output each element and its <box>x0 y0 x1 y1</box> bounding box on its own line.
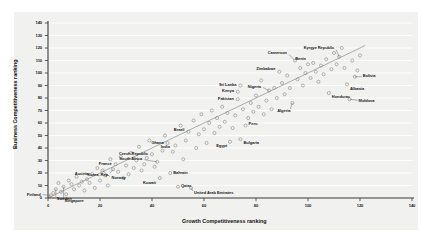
data-point <box>330 68 333 71</box>
x-tick-label: 120 <box>350 203 370 208</box>
y-tick-label: 70 <box>20 108 42 113</box>
y-tick-label: 40 <box>20 145 42 150</box>
data-point <box>184 139 187 142</box>
data-point <box>234 114 237 117</box>
data-point <box>140 169 143 172</box>
point-label: Bulgaria <box>243 140 259 145</box>
y-tick-label: 120 <box>20 45 42 50</box>
point-label: Norway <box>112 175 126 180</box>
data-point <box>132 166 135 169</box>
data-point <box>343 66 346 69</box>
data-point-labeled <box>171 150 174 153</box>
point-label: Honduras <box>332 94 350 99</box>
y-tick-label: 100 <box>20 70 42 75</box>
data-point <box>249 101 252 104</box>
y-axis-title: Business Competitiveness ranking <box>12 59 18 149</box>
point-label: Albania <box>350 86 364 91</box>
x-tick-label: 20 <box>90 203 110 208</box>
data-point <box>88 181 91 184</box>
y-tick-label: 90 <box>20 83 42 88</box>
data-point-labeled <box>236 90 239 93</box>
data-point <box>358 54 361 57</box>
data-point <box>288 86 291 89</box>
data-point <box>283 93 286 96</box>
data-point <box>98 179 101 182</box>
data-point-labeled <box>306 63 309 66</box>
data-point <box>257 105 260 108</box>
data-point <box>286 74 289 77</box>
data-point <box>280 81 283 84</box>
point-label: Sweden <box>57 196 72 201</box>
data-point <box>93 186 96 189</box>
data-point <box>205 141 208 144</box>
point-label: Austria <box>75 171 88 176</box>
data-point-labeled <box>291 101 294 104</box>
point-label: South Africa <box>119 156 142 161</box>
data-point <box>72 188 75 191</box>
y-tick-label: 10 <box>20 183 42 188</box>
x-axis-title: Growth Competitiveness ranking <box>182 218 266 224</box>
y-tick-label: 140 <box>20 20 42 25</box>
data-point <box>96 166 99 169</box>
point-label: Kyrgyz Republic <box>304 45 335 50</box>
data-point-labeled <box>244 124 247 127</box>
y-tick-label: 80 <box>20 95 42 100</box>
data-point-labeled <box>327 91 330 94</box>
y-tick-label: 130 <box>20 33 42 38</box>
data-point <box>218 125 221 128</box>
data-point <box>356 69 359 72</box>
point-label: Benin <box>295 56 306 61</box>
point-label: Finland <box>27 192 41 197</box>
x-tick-label: 100 <box>298 203 318 208</box>
point-label: Peru <box>249 121 258 126</box>
x-tick-label: 80 <box>246 203 266 208</box>
point-label: Brazil <box>174 127 185 132</box>
chart-figure: 0102030405060708090100110120130140020406… <box>0 0 430 244</box>
point-label: Kuwait <box>143 180 156 185</box>
data-point <box>335 63 338 66</box>
data-point <box>153 165 156 168</box>
data-point <box>57 181 60 184</box>
point-label: Bahrain <box>173 170 188 175</box>
point-label: India <box>161 144 170 149</box>
data-point <box>200 113 203 116</box>
data-point <box>312 61 315 64</box>
data-point-labeled <box>158 176 161 179</box>
point-label: Czech Republic <box>119 151 148 156</box>
y-tick-label: 30 <box>20 158 42 163</box>
point-label: Zimbabwe <box>256 66 275 71</box>
data-point <box>52 191 55 194</box>
point-label: Ghana <box>151 140 163 145</box>
point-label: Algeria <box>277 108 290 113</box>
x-tick-label: 140 <box>402 203 422 208</box>
data-point <box>231 126 234 129</box>
data-point <box>67 179 70 182</box>
x-tick-label: 0 <box>38 203 58 208</box>
data-point <box>202 128 205 131</box>
data-point <box>124 164 127 167</box>
point-label: United Arab Emirates <box>194 190 233 195</box>
data-point <box>83 189 86 192</box>
data-point <box>247 116 250 119</box>
point-label: Egypt <box>216 143 227 148</box>
data-point <box>174 144 177 147</box>
point-label: Qatar <box>181 183 191 188</box>
point-label: Sri Lanka <box>219 82 237 87</box>
data-point <box>254 94 257 97</box>
data-point <box>317 80 320 83</box>
point-label: France <box>99 161 112 166</box>
data-point <box>309 76 312 79</box>
data-point <box>221 105 224 108</box>
x-tick-label: 40 <box>142 203 162 208</box>
data-point <box>262 113 265 116</box>
point-label: Kenya <box>222 88 234 93</box>
data-point <box>265 99 268 102</box>
data-point <box>332 51 335 54</box>
y-tick-label: 110 <box>20 58 42 63</box>
data-point-labeled <box>239 138 242 141</box>
data-point-labeled <box>150 153 153 156</box>
data-point-labeled <box>228 140 231 143</box>
point-label: Moldova <box>359 98 375 103</box>
data-point <box>143 163 146 166</box>
data-point <box>145 156 148 159</box>
